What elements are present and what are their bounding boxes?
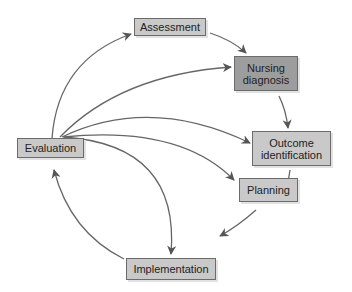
- node-label: Planning: [247, 184, 290, 196]
- node-label: Assessment: [140, 21, 200, 33]
- node-label-line1: Nursing: [247, 62, 285, 74]
- arrow-nursing-diagnosis-to-outcome: [279, 96, 288, 128]
- node-label: Implementation: [133, 263, 208, 275]
- arrow-evaluation-to-assessment: [52, 34, 131, 138]
- nursing-process-diagram: Assessment Nursing diagnosis Outcome ide…: [0, 0, 352, 292]
- node-label-line2: diagnosis: [243, 74, 289, 86]
- arrow-implementation-to-evaluation: [54, 170, 124, 259]
- node-label: Evaluation: [25, 142, 76, 154]
- arrow-planning-to-implementation: [220, 210, 256, 236]
- node-assessment: Assessment: [134, 18, 206, 36]
- arrow-assessment-to-nursing-diagnosis: [210, 33, 246, 53]
- arrow-evaluation-to-planning: [63, 135, 234, 180]
- arrow-evaluation-to-outcome: [62, 117, 250, 143]
- node-label-line1: Outcome: [269, 137, 314, 149]
- node-nursing-diagnosis: Nursing diagnosis: [234, 56, 298, 91]
- node-label-line2: identification: [261, 149, 322, 161]
- node-planning: Planning: [239, 178, 298, 202]
- node-implementation: Implementation: [126, 258, 216, 280]
- node-outcome-identification: Outcome identification: [252, 131, 331, 166]
- node-evaluation: Evaluation: [17, 138, 84, 158]
